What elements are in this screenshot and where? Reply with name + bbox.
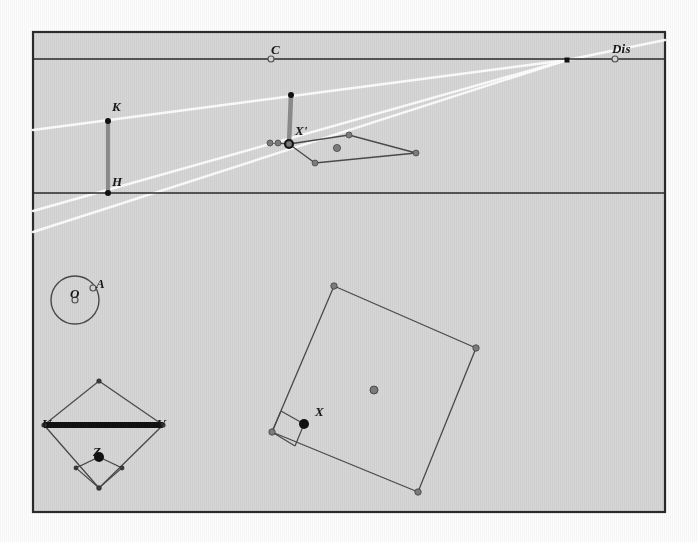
label-V: V [157, 417, 166, 430]
diamond-vertex-0 [96, 378, 101, 383]
label-O: O [70, 287, 80, 300]
point-Xp_top [288, 92, 294, 98]
diamond-inner-vertex-3 [74, 466, 79, 471]
point-Dis [612, 56, 618, 62]
label-X: X [315, 405, 324, 418]
label-Z: Z [93, 445, 101, 458]
upper-quad-vertex-1 [346, 132, 352, 138]
label-Xp: X' [295, 124, 308, 137]
upper-quad-vertex-0 [286, 141, 292, 147]
upper-quad-vertex-2 [413, 150, 419, 156]
lower-quad-vertex-0 [331, 283, 337, 289]
label-H: H [112, 175, 122, 188]
point-VP [565, 58, 570, 63]
label-A: A [96, 277, 105, 290]
figure-page: CDisKHX'OAUVZX [0, 0, 698, 542]
label-K: K [112, 100, 121, 113]
label-C: C [271, 43, 280, 56]
lower-quad-vertex-3 [269, 429, 275, 435]
geometry-figure [0, 0, 698, 542]
lower-quad-vertex-1 [473, 345, 479, 351]
label-U: U [42, 417, 52, 430]
Xprime-vertical-bar [289, 95, 291, 144]
upper-quad-vertex-4 [267, 140, 273, 146]
figure-frame [33, 32, 665, 512]
point-K [105, 118, 111, 124]
upper-quad-center-point [333, 144, 340, 151]
diamond-inner-vertex-2 [97, 486, 102, 491]
lower-quad-vertex-2 [415, 489, 421, 495]
label-Dis: Dis [612, 42, 631, 55]
lower-quad-center-point [370, 386, 378, 394]
upper-quad-vertex-3 [312, 160, 318, 166]
diamond-inner-vertex-1 [120, 466, 125, 471]
point-H [105, 190, 111, 196]
point-X [299, 419, 309, 429]
upper-quad-vertex-5 [275, 140, 281, 146]
